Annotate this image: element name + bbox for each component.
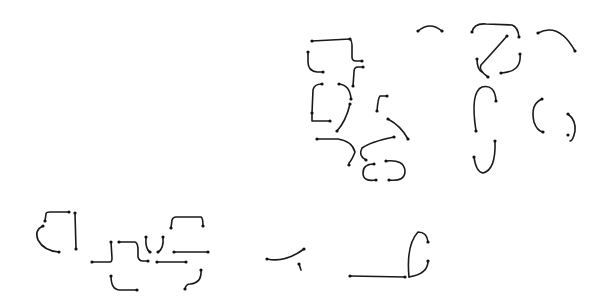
endpoint-dot-icon: [540, 97, 543, 100]
endpoint-dot-icon: [348, 274, 351, 277]
endpoint-dot-icon: [90, 260, 93, 263]
endpoint-dot-icon: [306, 50, 309, 53]
endpoint-dot-icon: [386, 117, 389, 120]
endpoint-dot-icon: [416, 29, 419, 32]
endpoint-dot-icon: [302, 247, 305, 250]
endpoint-dot-icon: [156, 250, 159, 253]
endpoint-dot-icon: [384, 159, 387, 162]
endpoint-dot-icon: [493, 139, 496, 142]
endpoint-dot-icon: [265, 257, 268, 260]
endpoint-dot-icon: [406, 137, 409, 140]
endpoint-dot-icon: [475, 57, 478, 60]
endpoint-dot-icon: [374, 178, 377, 181]
endpoint-dot-icon: [573, 49, 576, 52]
endpoint-dot-icon: [337, 82, 340, 85]
endpoint-dot-icon: [486, 75, 489, 78]
endpoint-dot-icon: [172, 250, 175, 253]
stroke-path: [350, 276, 405, 277]
endpoint-dot-icon: [183, 287, 186, 290]
endpoint-dot-icon: [536, 31, 539, 34]
endpoint-dot-icon: [364, 158, 367, 161]
endpoint-dot-icon: [320, 82, 323, 85]
endpoint-dot-icon: [474, 129, 477, 132]
endpoint-dot-icon: [387, 178, 390, 181]
endpoint-dot-icon: [74, 247, 77, 250]
endpoint-dot-icon: [347, 163, 350, 166]
endpoint-dot-icon: [361, 65, 364, 68]
endpoint-dot-icon: [541, 130, 544, 133]
endpoint-dot-icon: [360, 59, 363, 62]
endpoint-dot-icon: [321, 70, 324, 73]
endpoint-dot-icon: [566, 112, 569, 115]
endpoint-dot-icon: [201, 224, 204, 227]
endpoint-dot-icon: [348, 102, 351, 105]
endpoint-dot-icon: [206, 250, 209, 253]
endpoint-dot-icon: [403, 275, 406, 278]
endpoint-dot-icon: [41, 224, 44, 227]
endpoint-dot-icon: [494, 99, 497, 102]
endpoint-dot-icon: [135, 288, 138, 291]
endpoint-dot-icon: [470, 30, 473, 33]
diagram-canvas: [0, 0, 605, 304]
endpoint-dot-icon: [426, 240, 429, 243]
endpoint-dot-icon: [146, 259, 149, 262]
endpoint-dot-icon: [73, 211, 76, 214]
endpoint-dot-icon: [148, 250, 151, 253]
endpoint-dot-icon: [315, 137, 318, 140]
endpoint-dot-icon: [335, 129, 338, 132]
endpoint-dot-icon: [392, 135, 395, 138]
stroke-path: [75, 213, 76, 249]
endpoint-dot-icon: [57, 250, 60, 253]
endpoint-dot-icon: [518, 52, 521, 55]
endpoint-dot-icon: [372, 162, 375, 165]
endpoint-dot-icon: [351, 84, 354, 87]
endpoint-dot-icon: [566, 133, 569, 136]
endpoint-dot-icon: [169, 226, 172, 229]
endpoint-dot-icon: [328, 119, 331, 122]
endpoint-dot-icon: [199, 268, 202, 271]
endpoint-dot-icon: [67, 210, 70, 213]
endpoint-dot-icon: [144, 235, 147, 238]
endpoint-dot-icon: [184, 260, 187, 263]
endpoint-dot-icon: [310, 39, 313, 42]
endpoint-dot-icon: [349, 97, 352, 100]
endpoint-dot-icon: [517, 35, 520, 38]
endpoint-dot-icon: [155, 260, 158, 263]
endpoint-dot-icon: [117, 240, 120, 243]
endpoint-dot-icon: [161, 235, 164, 238]
endpoint-dot-icon: [426, 259, 429, 262]
endpoint-dot-icon: [43, 219, 46, 222]
endpoint-dot-icon: [472, 155, 475, 158]
endpoint-dot-icon: [440, 29, 443, 32]
endpoint-dot-icon: [499, 71, 502, 74]
endpoint-dot-icon: [297, 262, 300, 265]
endpoint-dot-icon: [375, 109, 378, 112]
endpoint-dot-icon: [505, 34, 508, 37]
background: [0, 0, 605, 304]
endpoint-dot-icon: [109, 240, 112, 243]
endpoint-dot-icon: [385, 94, 388, 97]
endpoint-dot-icon: [109, 274, 112, 277]
